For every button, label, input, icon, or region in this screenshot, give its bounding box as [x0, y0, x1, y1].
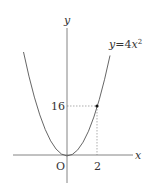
curve-label: y=4x2: [108, 38, 142, 51]
y-tick-16: 16: [51, 100, 65, 113]
point-2-16: [95, 104, 98, 107]
origin-label: O: [56, 160, 65, 173]
parabola-chart: y x O 16 2 y=4x2: [0, 0, 159, 194]
y-axis-label: y: [63, 14, 71, 27]
x-axis-label: x: [135, 149, 142, 162]
x-tick-2: 2: [94, 160, 101, 173]
